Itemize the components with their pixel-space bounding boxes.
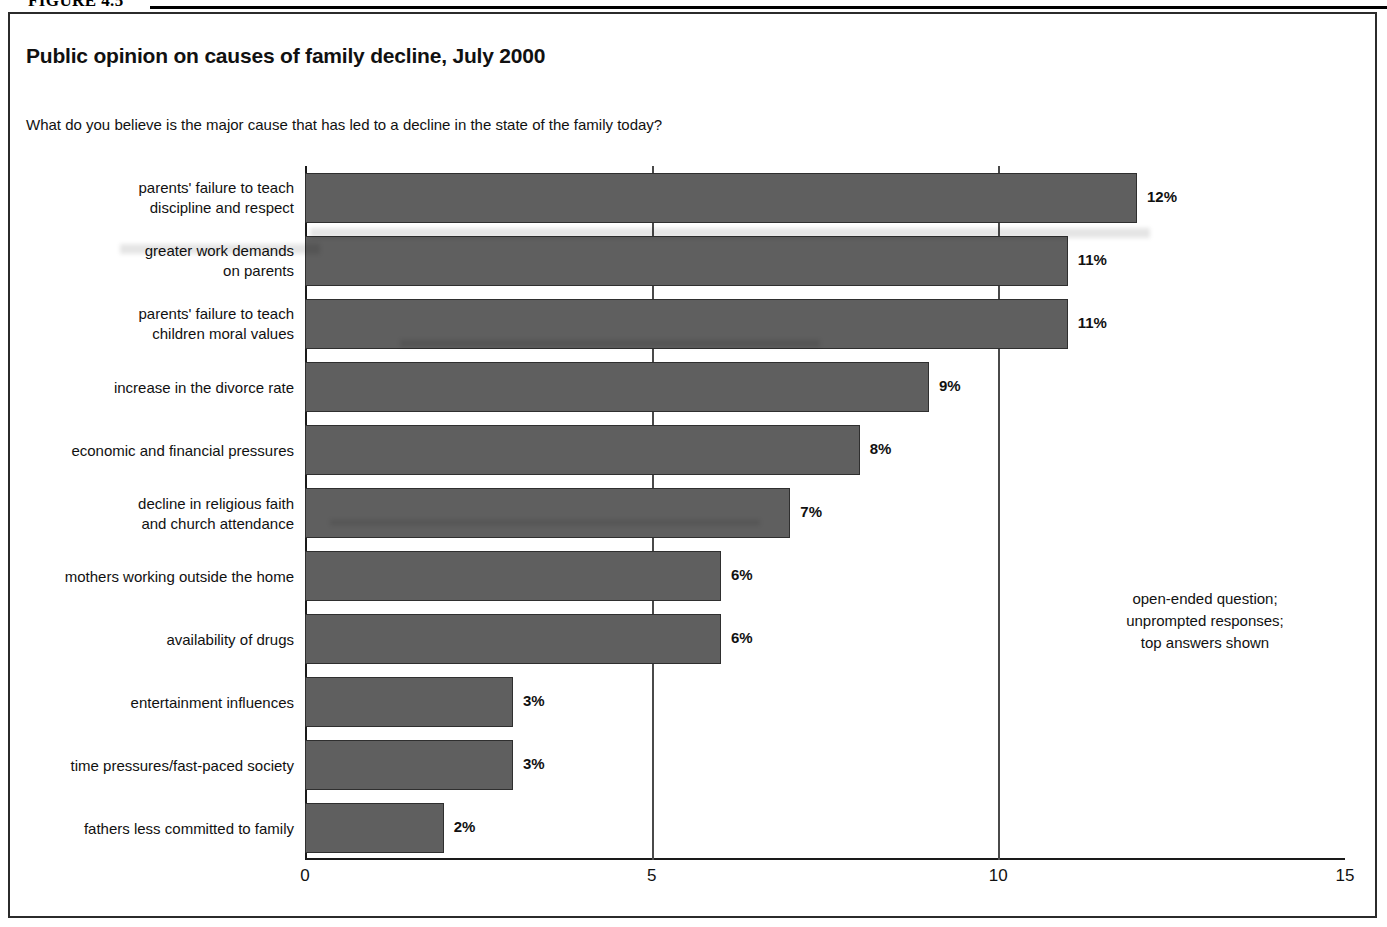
- bar-row: 2%: [305, 803, 1345, 853]
- chart-title: Public opinion on causes of family decli…: [26, 44, 545, 68]
- category-label: fathers less committed to family: [84, 819, 294, 839]
- bar: [305, 488, 790, 538]
- bar-value-label: 3%: [523, 755, 545, 772]
- category-label: decline in religious faith and church at…: [138, 494, 294, 535]
- category-label: mothers working outside the home: [65, 567, 294, 587]
- bar-row: 3%: [305, 740, 1345, 790]
- category-label: entertainment influences: [131, 693, 294, 713]
- bar-value-label: 8%: [870, 440, 892, 457]
- bar-value-label: 7%: [800, 503, 822, 520]
- bar: [305, 551, 721, 601]
- category-label: economic and financial pressures: [71, 441, 294, 461]
- category-label: availability of drugs: [166, 630, 294, 650]
- bar: [305, 236, 1068, 286]
- bar-value-label: 12%: [1147, 188, 1177, 205]
- bar-value-label: 9%: [939, 377, 961, 394]
- bar: [305, 425, 860, 475]
- chart-question: What do you believe is the major cause t…: [26, 116, 662, 133]
- bar: [305, 614, 721, 664]
- x-tick-label: 0: [300, 866, 309, 886]
- bar: [305, 677, 513, 727]
- bar-value-label: 6%: [731, 629, 753, 646]
- bar-row: 9%: [305, 362, 1345, 412]
- bar-value-label: 2%: [454, 818, 476, 835]
- category-label: time pressures/fast-paced society: [71, 756, 294, 776]
- bar-value-label: 11%: [1078, 314, 1107, 331]
- bar-value-label: 3%: [523, 692, 545, 709]
- bar-value-label: 11%: [1078, 251, 1107, 268]
- x-tick-label: 5: [647, 866, 656, 886]
- category-label: greater work demands on parents: [145, 241, 294, 282]
- bar-row: 12%: [305, 173, 1345, 223]
- x-tick-label: 10: [989, 866, 1008, 886]
- bar: [305, 173, 1137, 223]
- bar-row: 11%: [305, 236, 1345, 286]
- chart-note: open-ended question; unprompted response…: [1080, 588, 1330, 653]
- figure-number: FIGURE 4.5: [28, 0, 124, 11]
- bar: [305, 362, 929, 412]
- figure-rule: [150, 6, 1387, 9]
- chart-plot-area: 12%11%11%9%8%7%6%6%3%3%2% 051015: [305, 166, 1345, 860]
- category-label: increase in the divorce rate: [114, 378, 294, 398]
- bar-row: 7%: [305, 488, 1345, 538]
- x-axis-line: [305, 858, 1345, 860]
- bar-row: 8%: [305, 425, 1345, 475]
- category-label: parents' failure to teach children moral…: [139, 304, 294, 345]
- bar-value-label: 6%: [731, 566, 753, 583]
- bar-row: 3%: [305, 677, 1345, 727]
- bar: [305, 299, 1068, 349]
- x-tick-label: 15: [1336, 866, 1355, 886]
- bar: [305, 803, 444, 853]
- bar: [305, 740, 513, 790]
- bar-row: 11%: [305, 299, 1345, 349]
- category-label: parents' failure to teach discipline and…: [139, 178, 294, 219]
